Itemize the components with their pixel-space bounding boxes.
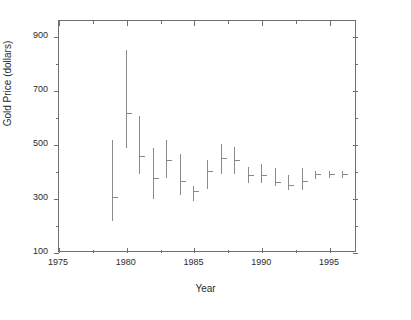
close-tick	[181, 181, 186, 182]
y-tick-major	[54, 253, 59, 254]
x-tick-label: 1990	[241, 258, 281, 267]
range-bar	[315, 171, 316, 179]
y-tick-label: 300	[8, 193, 48, 202]
close-tick	[208, 171, 213, 172]
close-tick	[235, 160, 240, 161]
x-tick-label: 1980	[106, 258, 146, 267]
y-axis-title: Gold Price (dollars)	[2, 24, 13, 144]
close-tick	[316, 174, 321, 175]
y-tick-label: 700	[8, 85, 48, 94]
chart-figure: Gold Price (dollars) Year 10030050070090…	[0, 0, 411, 320]
data-marks-layer	[58, 20, 356, 252]
close-tick	[249, 175, 254, 176]
range-bar	[193, 186, 194, 201]
range-bar	[180, 154, 181, 196]
range-bar	[261, 164, 262, 183]
close-tick	[303, 181, 308, 182]
close-tick	[262, 175, 267, 176]
close-tick	[167, 160, 172, 161]
y-tick-major-right	[353, 253, 358, 254]
x-tick-label: 1995	[309, 258, 349, 267]
range-bar	[139, 116, 140, 174]
y-tick-label: 900	[8, 31, 48, 40]
range-bar	[207, 160, 208, 188]
y-tick-label: 500	[8, 139, 48, 148]
range-bar	[112, 140, 113, 221]
close-tick	[330, 174, 335, 175]
x-tick-label: 1985	[173, 258, 213, 267]
close-tick	[222, 158, 227, 159]
range-bar	[288, 175, 289, 190]
y-tick-label: 100	[8, 247, 48, 256]
range-bar	[275, 168, 276, 186]
close-tick	[343, 174, 348, 175]
close-tick	[194, 191, 199, 192]
close-tick	[113, 197, 118, 198]
range-bar	[221, 144, 222, 174]
close-tick	[154, 178, 159, 179]
close-tick	[127, 113, 132, 114]
range-bar	[126, 50, 127, 148]
close-tick	[289, 185, 294, 186]
range-bar	[153, 148, 154, 199]
range-bar	[166, 140, 167, 178]
range-bar	[302, 168, 303, 190]
close-tick	[140, 156, 145, 157]
close-tick	[276, 182, 281, 183]
x-axis-title: Year	[0, 283, 411, 294]
x-tick-label: 1975	[38, 258, 78, 267]
